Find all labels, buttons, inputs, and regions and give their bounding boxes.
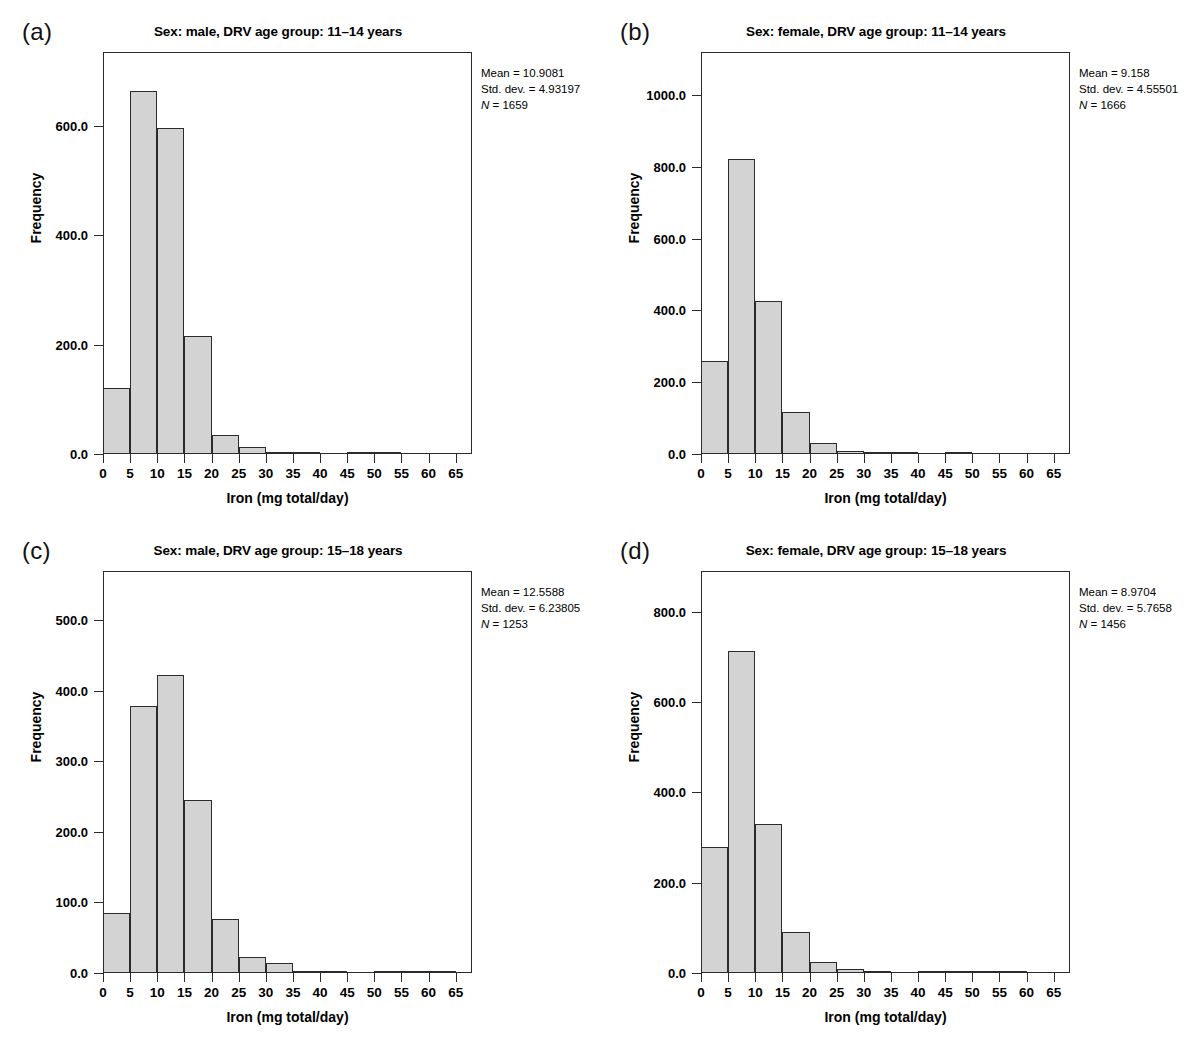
y-axis-tick-label: 600.0 — [602, 694, 686, 709]
x-axis-tick — [293, 454, 294, 463]
histogram-bar — [755, 301, 782, 454]
y-axis-tick — [94, 832, 103, 833]
bars-container — [103, 571, 472, 973]
x-axis-title: Iron (mg total/day) — [701, 490, 1070, 506]
y-axis-tick-label: 0.0 — [4, 447, 88, 462]
y-axis-tick — [94, 902, 103, 903]
x-axis-tick — [266, 454, 267, 463]
x-axis-tick — [184, 454, 185, 463]
stats-sd: Std. dev. = 4.93197 — [481, 82, 580, 98]
y-axis-title: Frequency — [626, 148, 642, 268]
histogram-bar — [212, 919, 239, 973]
x-axis-tick — [755, 973, 756, 982]
histogram-bar — [999, 971, 1026, 974]
x-axis-tick — [1027, 454, 1028, 463]
histogram-bar — [130, 91, 157, 454]
histogram-bar — [945, 452, 972, 455]
histogram-bar — [157, 128, 184, 454]
x-axis-title: Iron (mg total/day) — [701, 1009, 1070, 1025]
y-axis-tick-label: 200.0 — [4, 337, 88, 352]
x-axis-tick — [429, 973, 430, 982]
y-axis-labels: 0.0200.0400.0600.0 — [0, 0, 88, 519]
y-axis-title: Frequency — [626, 667, 642, 787]
y-axis-tick — [692, 973, 701, 974]
stats-sd: Std. dev. = 6.23805 — [481, 601, 580, 617]
x-axis-tick — [945, 454, 946, 463]
stats-n: N = 1253 — [481, 617, 580, 633]
y-axis-tick-label: 800.0 — [602, 159, 686, 174]
x-axis-tick — [347, 973, 348, 982]
x-axis-tick-label: 65 — [1036, 466, 1072, 481]
x-axis-tick — [130, 454, 131, 463]
y-axis-tick — [692, 95, 701, 96]
panel-c: (c) Sex: male, DRV age group: 15–18 year… — [0, 519, 598, 1038]
stats-n-value: = 1659 — [489, 99, 528, 111]
stats-n: N = 1659 — [481, 98, 580, 114]
y-axis-tick — [692, 167, 701, 168]
histogram-bar — [837, 451, 864, 454]
x-axis-tick — [972, 454, 973, 463]
histogram-bar — [103, 913, 130, 973]
histogram-bar — [755, 824, 782, 973]
x-axis-tick — [1027, 973, 1028, 982]
x-axis-tick — [401, 973, 402, 982]
figure-histogram-grid: (a) Sex: male, DRV age group: 11–14 year… — [0, 0, 1196, 1038]
stats-annotation: Mean = 8.9704 Std. dev. = 5.7658 N = 145… — [1079, 585, 1172, 633]
y-axis-tick — [692, 792, 701, 793]
y-axis-tick-label: 600.0 — [602, 231, 686, 246]
y-axis-tick — [692, 310, 701, 311]
histogram-bar — [184, 336, 211, 454]
histogram-bar — [701, 847, 728, 973]
y-axis-title: Frequency — [28, 667, 44, 787]
x-axis-tick — [1054, 973, 1055, 982]
x-axis-tick — [456, 454, 457, 463]
y-axis-tick — [94, 345, 103, 346]
x-axis-tick — [782, 454, 783, 463]
y-axis-labels: 0.0100.0200.0300.0400.0500.0 — [0, 519, 88, 1038]
x-axis-tick-label: 65 — [438, 985, 474, 1000]
histogram-bar — [810, 443, 837, 454]
x-axis-tick — [999, 454, 1000, 463]
x-axis-tick — [429, 454, 430, 463]
stats-annotation: Mean = 12.5588 Std. dev. = 6.23805 N = 1… — [481, 585, 580, 633]
histogram-bar — [293, 971, 320, 974]
y-axis-tick-label: 0.0 — [602, 447, 686, 462]
histogram-bar — [239, 447, 266, 454]
stats-mean: Mean = 10.9081 — [481, 66, 580, 82]
bars-container — [701, 52, 1070, 454]
y-axis-tick-label: 400.0 — [602, 303, 686, 318]
stats-sd: Std. dev. = 4.55501 — [1079, 82, 1178, 98]
stats-mean: Mean = 12.5588 — [481, 585, 580, 601]
y-axis-tick — [94, 126, 103, 127]
histogram-bar — [918, 971, 945, 974]
histogram-bar — [130, 706, 157, 973]
x-axis-title: Iron (mg total/day) — [103, 1009, 472, 1025]
histogram-bar — [972, 971, 999, 974]
bars-container — [701, 571, 1070, 973]
histogram-bar — [239, 957, 266, 973]
x-axis-tick — [239, 454, 240, 463]
histogram-bar — [891, 452, 918, 455]
y-axis-tick-label: 300.0 — [4, 754, 88, 769]
y-axis-tick-label: 400.0 — [4, 228, 88, 243]
y-axis-tick-label: 200.0 — [602, 875, 686, 890]
stats-annotation: Mean = 9.158 Std. dev. = 4.55501 N = 166… — [1079, 66, 1178, 114]
stats-mean: Mean = 8.9704 — [1079, 585, 1172, 601]
x-axis-title: Iron (mg total/day) — [103, 490, 472, 506]
histogram-bar — [945, 971, 972, 974]
histogram-bar — [157, 675, 184, 973]
y-axis-labels: 0.0200.0400.0600.0800.0 — [598, 519, 686, 1038]
x-axis-tick — [374, 454, 375, 463]
stats-sd: Std. dev. = 5.7658 — [1079, 601, 1172, 617]
histogram-bar — [212, 435, 239, 454]
histogram-bar — [293, 452, 320, 455]
x-axis-tick — [293, 973, 294, 982]
x-axis-tick — [374, 973, 375, 982]
x-axis-tick — [320, 973, 321, 982]
histogram-bar — [374, 452, 401, 455]
y-axis-tick — [94, 973, 103, 974]
x-axis-tick — [212, 973, 213, 982]
stats-n-value: = 1456 — [1087, 618, 1126, 630]
x-axis-tick — [239, 973, 240, 982]
x-axis-tick — [918, 454, 919, 463]
